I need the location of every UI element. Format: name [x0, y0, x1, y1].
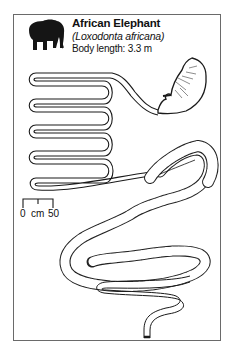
- large-intestine: [65, 146, 213, 287]
- digestive-tract-diagram: [0, 0, 235, 350]
- small-intestine: [29, 73, 160, 190]
- scale-start-label: 0: [20, 208, 26, 219]
- scale-unit-label: cm: [31, 208, 44, 219]
- scale-end-label: 50: [48, 208, 59, 219]
- stomach: [158, 58, 206, 114]
- scale-bar: [23, 199, 53, 208]
